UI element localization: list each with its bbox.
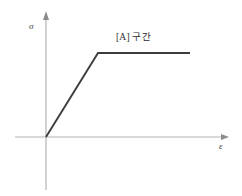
y-axis-label: σ: [29, 22, 33, 31]
x-axis-arrowhead-icon: [221, 134, 229, 140]
y-axis: [43, 11, 49, 190]
stress-strain-diagram: σ ε [A] 구간: [0, 0, 242, 196]
curve-polyline: [46, 53, 190, 137]
y-axis-arrowhead-icon: [43, 11, 49, 20]
stress-strain-curve: [46, 53, 190, 137]
region-a-annotation-label: [A] 구간: [116, 33, 151, 43]
x-axis-label: ε: [219, 142, 223, 151]
plot-canvas: [0, 0, 242, 196]
